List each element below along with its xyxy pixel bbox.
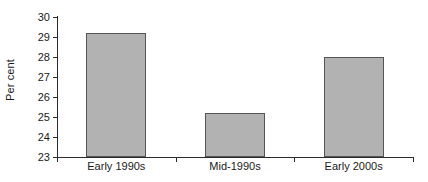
x-axis-line (56, 157, 414, 158)
y-axis-tick-label: 23 (38, 151, 50, 163)
x-axis-tick-label: Early 2000s (325, 160, 383, 172)
bar (205, 113, 265, 157)
bar (86, 33, 146, 157)
y-axis-tick-label: 30 (38, 11, 50, 23)
bar (324, 57, 384, 157)
y-axis-tick-mark (53, 117, 57, 118)
y-axis-tick-label: 24 (38, 131, 50, 143)
x-axis-tick-label: Mid-1990s (209, 160, 260, 172)
y-axis-title-text: Per cent (4, 59, 16, 101)
y-axis-tick-mark (53, 57, 57, 58)
y-axis-tick-label: 27 (38, 71, 50, 83)
y-axis-tick-labels: 2324252627282930 (20, 0, 52, 182)
y-axis-tick-label: 26 (38, 91, 50, 103)
x-axis-end-tick-mark (413, 157, 414, 162)
bar-chart: Per cent 2324252627282930 Early 1990sMid… (0, 0, 428, 182)
y-axis-tick-mark (53, 137, 57, 138)
y-axis-line (57, 16, 58, 158)
y-axis-tick-mark (53, 97, 57, 98)
y-axis-tick-label: 28 (38, 51, 50, 63)
y-axis-tick-mark (53, 17, 57, 18)
y-axis-tick-label: 25 (38, 111, 50, 123)
x-axis-tick-label: Early 1990s (87, 160, 145, 172)
y-axis-title: Per cent (0, 0, 20, 160)
y-axis-tick-label: 29 (38, 31, 50, 43)
x-axis-tick-labels: Early 1990sMid-1990sEarly 2000s (57, 160, 413, 180)
y-axis-tick-mark (53, 77, 57, 78)
y-axis-tick-mark (53, 37, 57, 38)
plot-area (57, 17, 413, 157)
